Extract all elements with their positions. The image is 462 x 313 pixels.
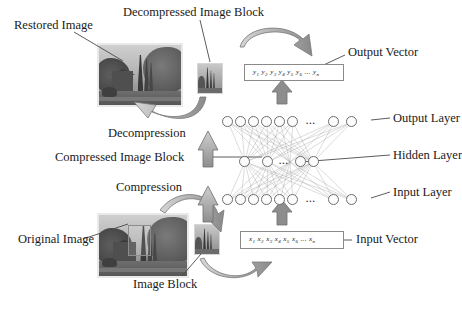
- input-node[interactable]: [328, 194, 339, 205]
- input-node[interactable]: [287, 194, 298, 205]
- output-node[interactable]: [328, 116, 339, 127]
- output-node[interactable]: [222, 116, 233, 127]
- output-node[interactable]: [287, 116, 298, 127]
- output-node[interactable]: [346, 116, 357, 127]
- input-node[interactable]: [235, 194, 246, 205]
- input-node[interactable]: [248, 194, 259, 205]
- hidden-node[interactable]: [295, 156, 306, 167]
- output-layer-ellipsis: ...: [306, 116, 316, 126]
- hidden-node[interactable]: [308, 156, 319, 167]
- output-node[interactable]: [261, 116, 272, 127]
- diagram-canvas: ... ... ... y1 y2 y3 y4 y5 y6 ... yn x1 …: [0, 0, 462, 313]
- input-node[interactable]: [274, 194, 285, 205]
- output-node[interactable]: [248, 116, 259, 127]
- network-edges: [0, 0, 462, 313]
- hidden-node[interactable]: [239, 156, 250, 167]
- input-node[interactable]: [222, 194, 233, 205]
- input-layer-ellipsis: ...: [306, 194, 316, 204]
- hidden-node[interactable]: [262, 156, 273, 167]
- input-node[interactable]: [261, 194, 272, 205]
- input-node[interactable]: [346, 194, 357, 205]
- output-node[interactable]: [235, 116, 246, 127]
- output-node[interactable]: [274, 116, 285, 127]
- hidden-layer-ellipsis: ...: [279, 156, 289, 166]
